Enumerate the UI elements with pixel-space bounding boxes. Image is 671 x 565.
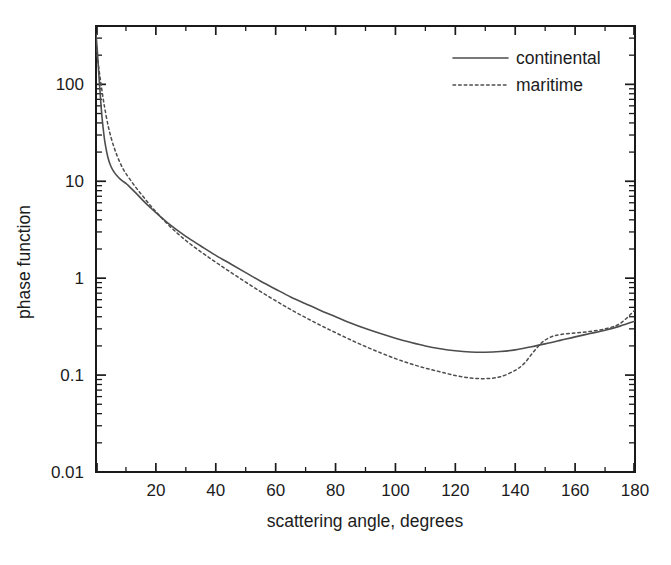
- y-axis-title: phase function: [14, 205, 34, 319]
- phase-function-chart: 20406080100120140160180 0.010.1110100 co…: [0, 0, 671, 565]
- x-axis-title: scattering angle, degrees: [267, 511, 464, 531]
- x-tick-label: 40: [206, 481, 225, 500]
- y-tick-label: 1: [75, 269, 84, 288]
- x-tick-label: 180: [621, 481, 649, 500]
- y-tick-label: 10: [65, 172, 84, 191]
- y-tick-label: 0.01: [51, 463, 84, 482]
- x-axis-tick-labels: 20406080100120140160180: [146, 481, 649, 500]
- y-axis-tick-labels: 0.010.1110100: [51, 75, 84, 482]
- x-tick-label: 160: [561, 481, 589, 500]
- x-tick-label: 140: [501, 481, 529, 500]
- x-tick-label: 80: [326, 481, 345, 500]
- x-tick-label: 120: [441, 481, 469, 500]
- x-tick-label: 60: [266, 481, 285, 500]
- chart-page: 20406080100120140160180 0.010.1110100 co…: [0, 0, 671, 565]
- y-tick-label: 100: [56, 75, 84, 94]
- x-tick-label: 20: [146, 481, 165, 500]
- chart-legend: continental maritime: [453, 48, 601, 95]
- legend-label-continental: continental: [516, 48, 601, 68]
- legend-label-maritime: maritime: [516, 75, 583, 95]
- y-tick-label: 0.1: [60, 366, 84, 385]
- x-tick-label: 100: [381, 481, 409, 500]
